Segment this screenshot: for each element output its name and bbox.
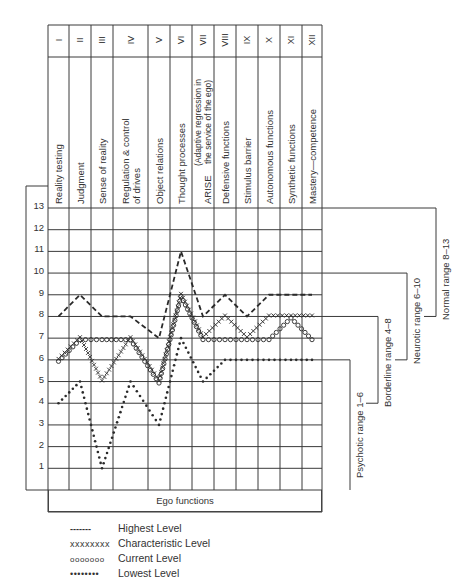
legend-item: oooooooCurrent Level [70,552,181,564]
y-tick-label: 6 [28,352,44,363]
y-tick-label: 5 [28,374,44,385]
column-numeral: VI [176,30,186,50]
legend-symbol: •••••••• [70,569,118,579]
column-label: Regulation & controlof drives [120,118,142,204]
legend-symbol: ------- [70,524,118,534]
column-numeral: X [264,30,274,50]
column-label: Thought processes [176,123,187,204]
column-label: Mastery—competence [307,109,318,204]
range-label: Normal range 8–13 [440,239,451,320]
column-numeral: I [54,30,64,50]
column-label: Defensive functions [220,121,231,204]
column-numeral: IX [242,30,252,50]
y-tick-label: 13 [28,200,44,211]
y-tick-label: 4 [28,395,44,406]
legend-item: ••••••••Lowest Level [70,567,179,579]
column-numeral: VII [198,30,208,50]
legend-label: Highest Level [118,522,182,534]
y-tick-label: 2 [28,439,44,450]
y-tick-label: 7 [28,330,44,341]
column-numeral: XII [307,30,317,50]
column-numeral: IV [126,30,136,50]
legend-label: Lowest Level [118,567,179,579]
legend-item: xxxxxxxxCharacteristic Level [70,537,210,549]
column-label: Judgment [75,162,86,204]
column-label: Sense of reality [97,139,108,204]
legend-label: Characteristic Level [118,537,210,549]
y-tick-label: 1 [28,460,44,471]
range-label: Psychotic range 1–6 [354,392,365,478]
column-label: Autonomous functions [264,110,275,204]
x-axis-title: Ego functions [48,490,322,512]
column-label: Stimulus barrier [242,137,253,204]
legend-symbol: ooooooo [70,555,118,564]
y-tick-label: 11 [28,243,44,254]
column-numeral: V [154,30,164,50]
column-numeral: III [97,30,107,50]
series-characteristic-level [57,292,314,383]
column-label: Object relations [154,138,165,204]
column-numeral: VIII [220,30,230,50]
legend-item: -------Highest Level [70,522,182,534]
series-current-level [56,294,314,385]
ego-function-chart: Psychotic range 1–6Borderline range 4–8N… [0,0,474,587]
range-label: Borderline range 4–8 [382,318,393,407]
y-tick-label: 10 [28,265,44,276]
y-tick-label: 3 [28,417,44,428]
y-tick-label: 12 [28,222,44,233]
column-numeral: II [75,30,85,50]
y-tick-label: 8 [28,308,44,319]
column-numeral: XI [286,30,296,50]
column-label: Synthetic functions [286,124,297,204]
y-tick-label: 9 [28,287,44,298]
legend-symbol: xxxxxxxx [70,539,118,549]
column-label: Reality testing [53,144,64,204]
legend-label: Current Level [118,552,181,564]
range-label: Neurotic range 6–10 [411,278,422,364]
